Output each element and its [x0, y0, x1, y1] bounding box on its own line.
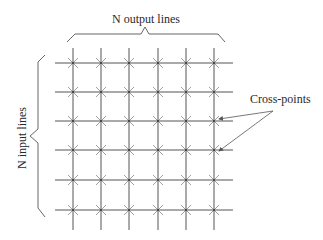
- output-brace: [67, 27, 225, 42]
- input-lines-label: N input lines: [15, 107, 29, 169]
- arrow: [219, 111, 273, 119]
- crosspoint-arrows: [219, 111, 273, 151]
- output-lines-label: N output lines: [112, 12, 180, 26]
- arrow: [219, 111, 273, 151]
- input-brace: [30, 55, 45, 217]
- crossbar-diagram: N output lines N input lines Cross-point…: [0, 0, 323, 240]
- crossbar-grid: [55, 48, 233, 230]
- crosspoints-label: Cross-points: [250, 92, 311, 106]
